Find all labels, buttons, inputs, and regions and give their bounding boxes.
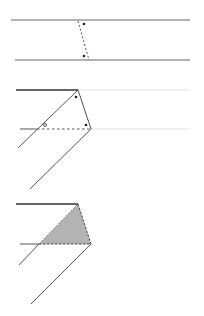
panel-shaded-triangle [16,204,91,304]
fold-edge [78,90,91,129]
folded-diagonal-inner [18,90,78,148]
angle-marker-circle [44,124,47,127]
shaded-triangle [39,204,91,244]
panel-strip [11,20,190,60]
folded-diagonal-inner [19,244,39,265]
right-angle-dot-bottom [85,124,88,127]
crease-dashed-line [78,21,89,60]
folded-diagonal-outer [31,244,91,304]
panel-folded-strip [16,90,190,189]
right-angle-dot-top [83,23,86,26]
folded-diagonal-outer [30,129,91,189]
right-angle-dot-top [75,96,78,99]
right-angle-dot-bottom [83,55,86,58]
diagram-canvas [0,0,204,316]
